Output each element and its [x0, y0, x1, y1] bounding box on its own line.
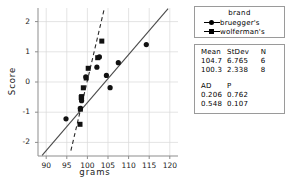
probability-plot-figure: 2 1 0 -1 -2 90 95 100 105 110 115 120 gr…: [0, 0, 287, 186]
table-row: 0.548 0.107: [195, 100, 284, 109]
stats-header-p: P: [227, 82, 261, 91]
table-spacer: [195, 75, 284, 82]
stats-cell-stdev: 2.338: [227, 66, 261, 75]
legend-box: brand bruegger's wolferman's: [194, 6, 285, 38]
stats-cell-mean: 104.7: [195, 57, 227, 66]
table-row: 0.206 0.762: [195, 91, 284, 100]
side-panels: brand bruegger's wolferman's Mean: [192, 0, 287, 186]
legend-title: brand: [195, 9, 284, 17]
stats-header-ad: AD: [195, 82, 227, 91]
stats-cell-mean: 100.3: [195, 66, 227, 75]
stats-cell-ad: 0.206: [195, 91, 227, 100]
test-header-row: AD P: [195, 82, 284, 91]
stats-cell-n: 6: [261, 57, 284, 66]
stats-cell-p: 0.107: [227, 100, 261, 109]
stats-cell-n: 8: [261, 66, 284, 75]
chart-area: 2 1 0 -1 -2 90 95 100 105 110 115 120 gr…: [0, 0, 190, 186]
x-axis-title: grams: [0, 167, 190, 177]
grid-lines: [38, 8, 178, 156]
legend-item-brueggers[interactable]: bruegger's: [195, 18, 284, 27]
stats-cell-p: 0.762: [227, 91, 261, 100]
legend-label-wolfermans: wolferman's: [220, 28, 265, 36]
y-tick-label: -2: [12, 137, 30, 146]
table-row: 104.7 6.765 6: [195, 57, 284, 66]
plot-canvas: [0, 0, 190, 186]
table-row: 100.3 2.338 8: [195, 66, 284, 75]
legend-label-brueggers: bruegger's: [220, 19, 260, 27]
legend-marker-square-icon: [204, 27, 220, 36]
y-tick-label: 2: [12, 17, 30, 26]
legend-marker-circle-icon: [204, 18, 220, 27]
statistics-box: Mean StDev N 104.7 6.765 6 100.3 2.338 8: [194, 44, 285, 114]
stats-header-n: N: [261, 48, 284, 57]
stats-cell-stdev: 6.765: [227, 57, 261, 66]
table-header-row: Mean StDev N: [195, 48, 284, 57]
legend-item-wolfermans[interactable]: wolferman's: [195, 27, 284, 36]
y-axis-title: Score: [7, 51, 17, 111]
stats-header-stdev: StDev: [227, 48, 261, 57]
stats-header-mean: Mean: [195, 48, 227, 57]
stats-cell-ad: 0.548: [195, 100, 227, 109]
statistics-table: Mean StDev N 104.7 6.765 6 100.3 2.338 8: [195, 48, 284, 109]
